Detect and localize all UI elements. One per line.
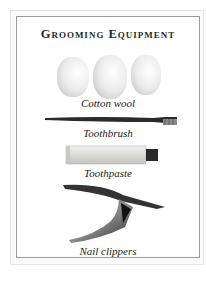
nail-clippers-image — [61, 183, 171, 245]
cotton-wool-image — [47, 51, 167, 101]
caption-toothbrush: Toothbrush — [17, 127, 199, 139]
caption-cotton-wool: Cotton wool — [17, 97, 199, 109]
content-panel: Grooming Equipment Cotton wool Toothbrus… — [16, 16, 200, 258]
toothpaste-image — [65, 144, 159, 166]
caption-nail-clippers: Nail clippers — [17, 245, 199, 257]
caption-toothpaste: Toothpaste — [17, 167, 199, 179]
toothbrush-image — [43, 113, 179, 127]
page-title: Grooming Equipment — [17, 27, 199, 42]
